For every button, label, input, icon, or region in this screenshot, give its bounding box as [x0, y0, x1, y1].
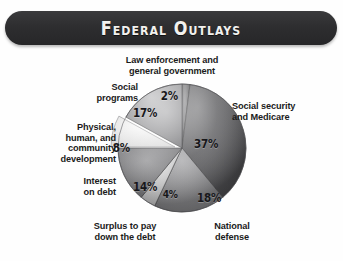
pie-label-social-security: Social security and Medicare [232, 101, 340, 122]
pie-value-social-programs: 17% [133, 105, 157, 120]
pie-value-surplus: 4% [163, 188, 178, 201]
pie-value-interest-on-debt: 14% [133, 179, 157, 194]
federal-outlays-figure: Federal Outlays [0, 0, 343, 261]
pie-label-law-enforcement: Law enforcement and general government [84, 55, 260, 76]
page-title: Federal Outlays [15, 11, 327, 45]
pie-value-social-security: 37% [194, 136, 218, 151]
pie-label-interest-on-debt: Interest on debt [40, 176, 116, 197]
pie-label-surplus: Surplus to pay down the debt [66, 221, 184, 242]
title-bar: Federal Outlays [5, 11, 337, 45]
pie-value-law-enforcement: 2% [161, 88, 178, 103]
pie-label-physical-development: Physical, human, and community developme… [16, 122, 116, 164]
pie-label-national-defense: National defense [188, 221, 276, 242]
pie-label-social-programs: Social programs [44, 82, 138, 103]
pie-value-national-defense: 18% [197, 190, 221, 205]
pie-slices [111, 84, 246, 212]
